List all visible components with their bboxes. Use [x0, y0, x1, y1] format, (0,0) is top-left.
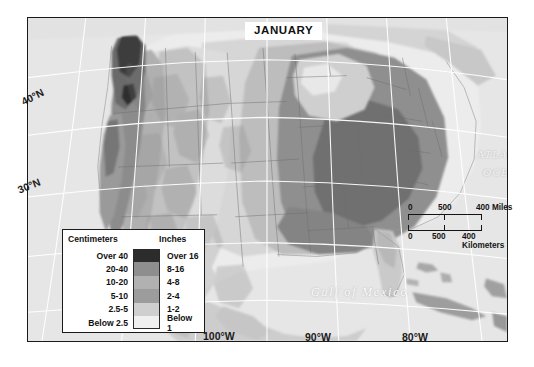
scale-bar-km-labels: 0 500 400 Kilometers — [408, 232, 520, 243]
legend-centimeters-value: 10-20 — [68, 277, 133, 287]
legend-row: 10-204-8 — [63, 276, 204, 289]
legend-color-swatch — [133, 303, 160, 316]
legend-inches-value: 4-8 — [160, 277, 199, 287]
map-figure: ATLANTIC OCEAN Gulf of Mexico JANUARY 40… — [0, 0, 534, 367]
scale-miles-end: 400 Miles — [476, 203, 512, 212]
scale-km-0: 0 — [408, 232, 413, 241]
atlantic-ocean-label-line1: ATLANTIC — [477, 148, 508, 160]
legend-row: Below 2.5Below 1 — [63, 316, 204, 329]
legend-centimeters-value: Below 2.5 — [68, 318, 133, 328]
legend-centimeters-value: 20-40 — [68, 264, 133, 274]
legend-row: 5-102-4 — [63, 289, 204, 302]
map-legend: Centimeters Inches Over 40Over 1620-408-… — [62, 229, 205, 333]
scale-km-end: 400 Kilometers — [462, 232, 520, 250]
scale-bar-miles: 0 500 400 Miles — [408, 203, 520, 221]
legend-inches-value: Below 1 — [160, 313, 199, 333]
gulf-of-mexico-label: Gulf of Mexico — [311, 285, 408, 300]
longitude-label-80w: 80°W — [402, 331, 428, 343]
legend-centimeters-value: 5-10 — [68, 291, 133, 301]
legend-color-swatch — [133, 316, 160, 329]
legend-row: 20-408-16 — [63, 262, 204, 275]
legend-color-swatch — [133, 249, 160, 262]
scale-bar-km-line — [408, 224, 482, 231]
longitude-label-100w: 100°W — [203, 330, 235, 342]
scale-miles-mid: 500 — [438, 203, 452, 212]
legend-header-centimeters: Centimeters — [68, 234, 130, 244]
legend-header-inches: Inches — [156, 234, 186, 244]
atlantic-ocean-label-line2: OCEAN — [483, 166, 508, 178]
scale-bar-kilometers: 0 500 400 Kilometers — [408, 224, 520, 243]
scale-miles-0: 0 — [408, 203, 413, 212]
legend-color-swatch — [133, 289, 160, 302]
map-title: JANUARY — [245, 22, 322, 40]
scale-bar-miles-line — [408, 214, 482, 221]
longitude-label-90w: 90°W — [305, 331, 331, 343]
legend-color-swatch — [133, 276, 160, 289]
legend-header: Centimeters Inches — [63, 234, 204, 249]
legend-centimeters-value: 2.5-5 — [68, 304, 133, 314]
legend-rows: Over 40Over 1620-408-1610-204-85-102-42.… — [63, 249, 204, 329]
legend-inches-value: Over 16 — [160, 251, 199, 261]
scale-bar-miles-labels: 0 500 400 Miles — [408, 203, 520, 214]
legend-color-swatch — [133, 262, 160, 275]
legend-inches-value: 2-4 — [160, 291, 199, 301]
legend-inches-value: 8-16 — [160, 264, 199, 274]
legend-centimeters-value: Over 40 — [68, 251, 133, 261]
scale-bars: 0 500 400 Miles 0 500 400 Kilometers — [408, 203, 520, 243]
legend-row: Over 40Over 16 — [63, 249, 204, 262]
scale-km-mid: 500 — [432, 232, 446, 241]
